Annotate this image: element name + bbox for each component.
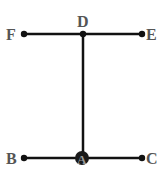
label-c: C: [146, 150, 158, 167]
label-d: D: [77, 13, 89, 30]
label-e: E: [146, 26, 157, 43]
label-a: A: [77, 152, 87, 167]
node-f: [21, 31, 27, 37]
diagram-canvas: F D E B A C: [0, 0, 166, 180]
node-e: [139, 31, 145, 37]
node-c: [139, 155, 145, 161]
label-b: B: [6, 150, 17, 167]
label-f: F: [6, 26, 16, 43]
node-b: [21, 155, 27, 161]
node-d: [80, 31, 86, 37]
